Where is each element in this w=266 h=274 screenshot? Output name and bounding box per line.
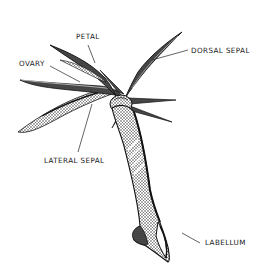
orchid-illustration: [0, 0, 266, 274]
label-lateral-sepal: LATERAL SEPAL: [44, 157, 104, 164]
label-labellum: LABELLUM: [205, 239, 246, 246]
labellum-leader: [182, 233, 200, 243]
labellum-shape: [112, 105, 169, 262]
lateral-sepal-leader: [78, 104, 92, 152]
label-dorsal-sepal: DORSAL SEPAL: [191, 47, 250, 54]
ovary-leader: [50, 66, 80, 82]
label-petal: PETAL: [76, 33, 100, 40]
lateral-sepal-shape: [18, 89, 118, 132]
orchid-diagram: PETAL OVARY DORSAL SEPAL LATERAL SEPAL L…: [0, 0, 266, 274]
label-ovary: OVARY: [19, 60, 45, 67]
dorsal-sepal-shape: [124, 32, 182, 100]
petal-leader: [88, 45, 95, 63]
